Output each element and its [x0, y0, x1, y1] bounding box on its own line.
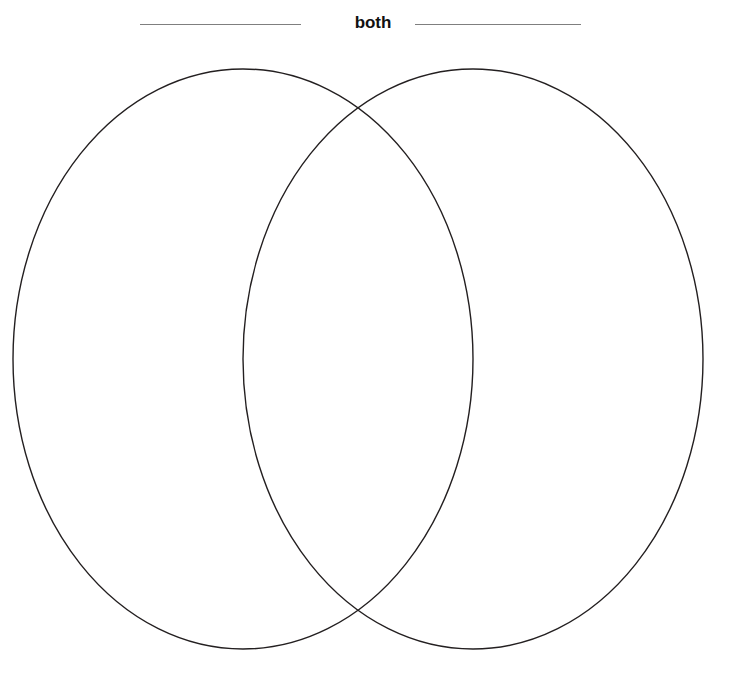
venn-diagram [0, 0, 746, 676]
venn-worksheet-page: both [0, 0, 746, 676]
right-set-region[interactable] [481, 149, 671, 569]
intersection-region[interactable] [273, 144, 443, 574]
venn-diagram-svg [0, 0, 746, 676]
left-set-region[interactable] [45, 149, 235, 569]
